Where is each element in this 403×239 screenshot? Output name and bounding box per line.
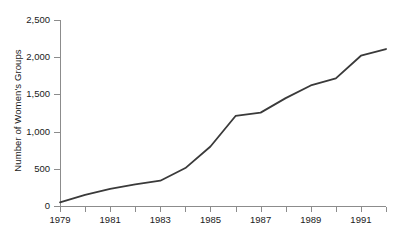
y-tick-label: 2,000 [26, 51, 50, 62]
y-tick-mark: 1,500 [54, 94, 60, 95]
x-tick-label: 1989 [300, 214, 321, 225]
y-tick-mark: 2,500 [54, 20, 60, 21]
line-chart: Number of Women's Groups 05001,0001,5002… [0, 0, 403, 239]
x-tick-mark [311, 207, 312, 212]
x-axis-line [60, 206, 386, 207]
y-tick-mark: 2,000 [54, 57, 60, 58]
y-axis-line [60, 20, 61, 207]
x-tick-label: 1979 [49, 214, 70, 225]
x-tick-mark [386, 207, 387, 212]
y-tick-mark: 500 [54, 169, 60, 170]
x-tick-mark [60, 207, 61, 212]
y-axis-title: Number of Women's Groups [12, 31, 23, 191]
x-tick-mark [160, 207, 161, 212]
x-tick-label: 1987 [250, 214, 271, 225]
y-tick-label: 500 [34, 163, 50, 174]
x-tick-mark [236, 207, 237, 212]
x-tick-label: 1985 [200, 214, 221, 225]
y-tick-mark: 1,000 [54, 132, 60, 133]
x-tick-mark [185, 207, 186, 212]
x-tick-mark [336, 207, 337, 212]
x-tick-mark [135, 207, 136, 212]
y-tick-label: 0 [45, 200, 50, 211]
x-tick-mark [110, 207, 111, 212]
x-tick-mark [85, 207, 86, 212]
y-tick-label: 1,500 [26, 88, 50, 99]
x-tick-mark [361, 207, 362, 212]
x-tick-label: 1991 [350, 214, 371, 225]
y-tick-label: 2,500 [26, 14, 50, 25]
x-tick-label: 1981 [100, 214, 121, 225]
series-line-number-of-womens-groups [60, 49, 386, 202]
x-tick-mark [261, 207, 262, 212]
x-tick-label: 1983 [150, 214, 171, 225]
y-tick-label: 1,000 [26, 126, 50, 137]
x-tick-mark [210, 207, 211, 212]
x-tick-mark [286, 207, 287, 212]
